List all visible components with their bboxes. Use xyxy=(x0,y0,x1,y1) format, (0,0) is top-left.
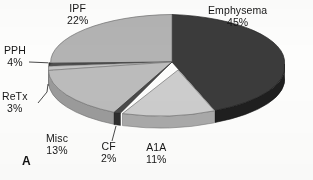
leader-line-cf xyxy=(112,126,116,141)
panel-label: A xyxy=(22,154,31,168)
pie-label-ipf: IPF 22% xyxy=(67,3,88,26)
pie-label-a1a-name: A1A xyxy=(146,142,167,154)
pie-label-retx: ReTx 3% xyxy=(2,91,28,114)
pie-label-emphysema: Emphysema 45% xyxy=(208,5,267,28)
pie-label-retx-name: ReTx xyxy=(2,91,28,103)
pie-label-emphysema-percent: 45% xyxy=(208,17,267,29)
pie-label-cf: CF 2% xyxy=(101,141,116,164)
pie-label-ipf-percent: 22% xyxy=(67,15,88,27)
pie-label-retx-percent: 3% xyxy=(2,103,28,115)
leader-line-retx xyxy=(38,84,48,103)
pie-label-misc-name: Misc xyxy=(46,133,68,145)
pie-label-cf-name: CF xyxy=(101,141,116,153)
pie-label-ipf-name: IPF xyxy=(67,3,88,15)
pie-label-pph-percent: 4% xyxy=(4,57,26,69)
pie-label-pph-name: PPH xyxy=(4,45,26,57)
pie-label-a1a: A1A 11% xyxy=(146,142,167,165)
slice-side-cf xyxy=(114,112,121,125)
leader-line-pph xyxy=(29,62,48,63)
figure-panel: Emphysema 45% IPF 22% PPH 4% ReTx 3% Mis… xyxy=(0,0,313,180)
pie-label-emphysema-name: Emphysema xyxy=(208,5,267,17)
pie-label-pph: PPH 4% xyxy=(4,45,26,68)
pie-label-cf-percent: 2% xyxy=(101,153,116,165)
pie-label-misc: Misc 13% xyxy=(46,133,68,156)
pie-label-a1a-percent: 11% xyxy=(146,154,167,166)
pie-label-misc-percent: 13% xyxy=(46,145,68,157)
